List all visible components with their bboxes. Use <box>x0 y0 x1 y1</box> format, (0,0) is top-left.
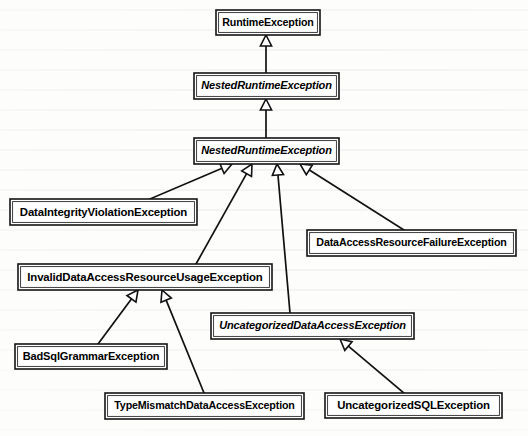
edge-line <box>196 174 247 264</box>
uml-class-box[interactable]: DataAccessResourceFailureException <box>307 230 516 256</box>
class-name-label: NestedRuntimeException <box>201 79 332 91</box>
class-name-label: DataIntegrityViolationException <box>20 206 187 218</box>
edge-line <box>348 346 404 393</box>
edge-line <box>309 170 404 230</box>
inheritance-arrowhead-icon <box>161 290 171 302</box>
uml-class-box[interactable]: DataIntegrityViolationException <box>10 199 197 225</box>
edge-line <box>166 300 204 393</box>
node-layer: RuntimeExceptionNestedRuntimeExceptionNe… <box>10 10 516 419</box>
inheritance-arrowhead-icon <box>260 35 271 46</box>
generalization-edge <box>98 290 138 344</box>
uml-class-box[interactable]: TypeMismatchDataAccessException <box>105 393 304 419</box>
class-name-label: RuntimeException <box>222 16 313 28</box>
edge-line <box>150 168 222 199</box>
uml-class-box[interactable]: UncategorizedDataAccessException <box>211 313 414 339</box>
inheritance-arrowhead-icon <box>242 164 252 176</box>
generalization-edge <box>260 99 271 138</box>
inheritance-arrowhead-icon <box>272 164 283 175</box>
generalization-edge <box>340 339 404 393</box>
uml-class-box[interactable]: RuntimeException <box>216 10 320 35</box>
uml-class-diagram: RuntimeExceptionNestedRuntimeExceptionNe… <box>0 0 528 436</box>
generalization-edge <box>272 164 290 313</box>
inheritance-arrowhead-icon <box>127 290 138 302</box>
class-name-label: UncategorizedSQLException <box>337 399 490 411</box>
generalization-edge <box>260 35 271 73</box>
uml-canvas: RuntimeExceptionNestedRuntimeExceptionNe… <box>0 0 528 436</box>
uml-class-box[interactable]: BadSqlGrammarException <box>15 344 167 369</box>
uml-class-box[interactable]: InvalidDataAccessResourceUsageException <box>18 264 272 290</box>
class-name-label: TypeMismatchDataAccessException <box>114 399 294 411</box>
inheritance-arrowhead-icon <box>260 99 271 110</box>
generalization-edge <box>161 290 204 393</box>
uml-class-box[interactable]: NestedRuntimeException <box>194 73 339 99</box>
uml-class-box[interactable]: NestedRuntimeException <box>194 138 339 164</box>
generalization-edge <box>196 164 252 264</box>
edge-line <box>98 299 131 344</box>
class-name-label: InvalidDataAccessResourceUsageException <box>27 271 263 283</box>
class-name-label: NestedRuntimeException <box>201 144 332 156</box>
class-name-label: UncategorizedDataAccessException <box>219 319 406 331</box>
uml-class-box[interactable]: UncategorizedSQLException <box>325 393 502 418</box>
edge-line <box>278 175 290 313</box>
generalization-edge <box>150 163 232 199</box>
inheritance-arrowhead-icon <box>300 164 312 175</box>
class-name-label: DataAccessResourceFailureException <box>316 236 506 248</box>
generalization-edge <box>300 164 404 230</box>
class-name-label: BadSqlGrammarException <box>23 350 160 362</box>
